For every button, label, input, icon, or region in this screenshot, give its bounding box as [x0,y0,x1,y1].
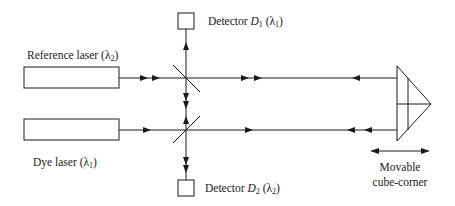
dye-laser-text: Dye laser [33,156,77,168]
dye-laser-box [24,119,119,140]
paren-close: ) [279,15,283,27]
reference-laser-box [24,67,119,88]
cube-corner-label: Movable cube-corner [368,160,432,190]
paren-open: ( [260,182,267,194]
detector-text: Detector [208,15,248,27]
reference-laser-label: Reference laser (λ2) [27,50,118,62]
arrowheads [140,42,430,173]
detector-text: Detector [205,182,245,194]
paren-close: ) [114,49,118,61]
reference-laser-text: Reference laser [27,49,98,61]
detector-d2-label: Detector D2 (λ2) [205,183,280,195]
detector-d1-box [178,13,194,29]
paren-open: ( [98,49,105,61]
dye-laser-label: Dye laser (λ1) [33,157,97,169]
detector-letter: D [250,15,258,27]
detector-d2-box [178,180,194,196]
paren-close: ) [276,182,280,194]
paren-open: ( [263,15,270,27]
cube-corner-label-line1: Movable [368,160,432,175]
cube-corner-label-line2: cube-corner [368,175,432,190]
detector-letter: D [247,182,255,194]
detector-d1-label: Detector D1 (λ1) [208,16,283,28]
paren-close: ) [93,156,97,168]
